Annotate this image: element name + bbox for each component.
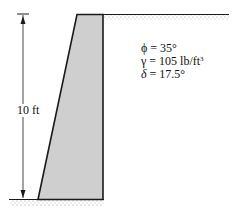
soil-parameters: ϕ = 35° γ = 105 lb/ft3 δ = 17.5°	[141, 42, 204, 81]
arrow-up-icon	[21, 16, 26, 24]
retaining-wall	[38, 15, 103, 200]
wall-height-label: 10 ft	[17, 104, 39, 117]
wall-friction-angle: δ = 17.5°	[141, 68, 204, 81]
backfill-surface	[103, 15, 229, 20]
ground-surface	[10, 200, 104, 206]
arrow-down-icon	[21, 190, 26, 198]
